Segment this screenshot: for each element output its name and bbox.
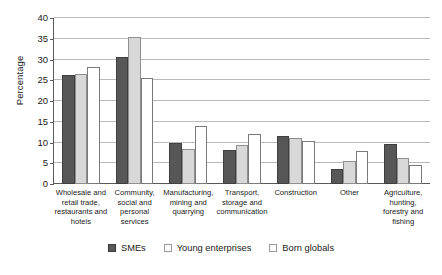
bar-group xyxy=(376,18,430,184)
legend-item[interactable]: Young enterprises xyxy=(164,243,252,253)
legend-label: Young enterprises xyxy=(177,243,252,253)
y-tick-label-35: 35 xyxy=(18,34,48,44)
y-tick-mark-0 xyxy=(50,184,54,185)
x-axis-label-line: storage and xyxy=(209,198,275,208)
bar xyxy=(128,37,141,184)
y-tick-label-40: 40 xyxy=(18,13,48,23)
x-axis-label-line: forestry and xyxy=(370,207,436,217)
x-axis-label-line: Agriculture, xyxy=(370,188,436,198)
legend-label: SMEs xyxy=(121,243,146,253)
x-axis-label-line: hunting, xyxy=(370,198,436,208)
bar xyxy=(62,75,75,184)
bar xyxy=(141,78,154,184)
bar xyxy=(277,136,290,184)
bar xyxy=(116,57,129,184)
bar xyxy=(409,165,422,184)
bar xyxy=(331,169,344,184)
bar xyxy=(356,151,369,184)
bar-groups xyxy=(54,18,430,184)
bar xyxy=(182,149,195,184)
x-axis-label-line: fishing xyxy=(370,217,436,227)
bar xyxy=(384,144,397,184)
y-tick-label-5: 5 xyxy=(18,158,48,168)
bar xyxy=(87,67,100,184)
bar xyxy=(248,134,261,184)
bar-group xyxy=(108,18,162,184)
x-axis-label: Agriculture,hunting,forestry andfishing xyxy=(370,188,436,226)
legend-swatch-icon xyxy=(269,244,277,252)
bar-group xyxy=(323,18,377,184)
x-axis-label-line: services xyxy=(102,217,168,227)
legend-label: Born globals xyxy=(282,243,334,253)
y-tick-label-30: 30 xyxy=(18,55,48,65)
bar xyxy=(223,150,236,184)
y-tick-label-15: 15 xyxy=(18,117,48,127)
y-tick-label-25: 25 xyxy=(18,75,48,85)
bar xyxy=(397,158,410,184)
bar xyxy=(169,143,182,184)
y-tick-label-0: 0 xyxy=(18,179,48,189)
bar xyxy=(302,141,315,184)
y-tick-label-10: 10 xyxy=(18,138,48,148)
bar xyxy=(343,161,356,184)
legend-item[interactable]: SMEs xyxy=(108,243,146,253)
bar xyxy=(236,145,249,184)
legend-swatch-icon xyxy=(164,244,172,252)
bar-group xyxy=(215,18,269,184)
legend-item[interactable]: Born globals xyxy=(269,243,334,253)
x-axis-category-labels: Wholesale andretail trade,restaurants an… xyxy=(54,188,430,240)
bar-group xyxy=(161,18,215,184)
bar xyxy=(195,126,208,185)
legend-swatch-icon xyxy=(108,244,116,252)
chart-legend: SMEsYoung enterprisesBorn globals xyxy=(0,243,442,253)
plot-area xyxy=(54,18,430,184)
x-axis-label-line: communication xyxy=(209,207,275,217)
y-tick-label-20: 20 xyxy=(18,96,48,106)
bar xyxy=(289,138,302,184)
bar-group xyxy=(269,18,323,184)
bar xyxy=(75,74,88,184)
bar-group xyxy=(54,18,108,184)
bar-chart-figure: Percentage 0510152025303540 Wholesale an… xyxy=(0,0,442,275)
